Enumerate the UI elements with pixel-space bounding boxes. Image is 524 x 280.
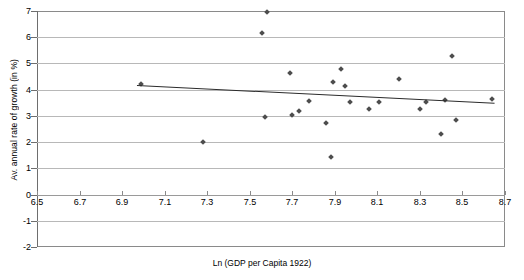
x-tick xyxy=(462,191,463,195)
y-tick-label: -2 xyxy=(0,243,31,252)
y-tick-label: 1 xyxy=(0,164,31,173)
x-tick-label: 6.7 xyxy=(60,198,100,207)
x-axis-title: Ln (GDP per Capita 1922) xyxy=(0,258,524,268)
y-tick-label: 4 xyxy=(0,86,31,95)
x-tick xyxy=(377,191,378,195)
x-tick xyxy=(165,191,166,195)
x-tick-label: 6.5 xyxy=(17,198,57,207)
x-tick xyxy=(250,191,251,195)
x-tick xyxy=(505,191,506,195)
y-tick-label: 6 xyxy=(0,33,31,42)
x-tick-label: 8.1 xyxy=(357,198,397,207)
x-tick-label: 6.9 xyxy=(102,198,142,207)
y-tick-label: -1 xyxy=(0,217,31,226)
x-tick-label: 7.1 xyxy=(145,198,185,207)
x-tick-label: 8.7 xyxy=(485,198,524,207)
x-tick xyxy=(80,191,81,195)
x-tick xyxy=(420,191,421,195)
x-tick-label: 7.5 xyxy=(230,198,270,207)
x-tick-label: 7.7 xyxy=(272,198,312,207)
x-tick-label: 7.9 xyxy=(315,198,355,207)
y-tick-label: 3 xyxy=(0,112,31,121)
scatter-chart: Av. annual rate of growth (in %) 7654321… xyxy=(0,0,524,280)
x-tick-label: 8.3 xyxy=(400,198,440,207)
y-axis-labels: 76543210-1-2 xyxy=(0,0,524,280)
x-tick xyxy=(335,191,336,195)
y-tick-label: 7 xyxy=(0,7,31,16)
x-tick-label: 8.5 xyxy=(442,198,482,207)
x-tick xyxy=(122,191,123,195)
y-tick-label: 5 xyxy=(0,59,31,68)
x-tick xyxy=(207,191,208,195)
x-tick-label: 7.3 xyxy=(187,198,227,207)
x-tick xyxy=(37,191,38,195)
y-tick-label: 2 xyxy=(0,138,31,147)
x-tick xyxy=(292,191,293,195)
